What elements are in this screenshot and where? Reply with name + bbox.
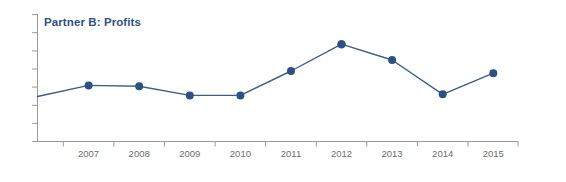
data-point-2008[interactable] [135,82,143,90]
data-line-profits [38,44,494,96]
x-tick-label-2012: 2012 [331,148,352,159]
data-point-2011[interactable] [287,67,295,75]
chart-title: Partner B: Profits [44,16,141,28]
data-point-2012[interactable] [337,40,346,49]
x-tick-label-2015: 2015 [483,148,504,159]
data-markers [85,40,498,100]
x-tick-label-2007: 2007 [78,148,99,159]
y-axis-ticks [32,15,37,142]
x-tick-label-2008: 2008 [129,148,150,159]
data-point-2010[interactable] [236,91,244,99]
data-point-2013[interactable] [388,56,396,64]
data-point-2015[interactable] [489,69,497,77]
x-axis-ticks [63,142,518,147]
chart-figure: Partner B: Profits 2007 2008 2009 2010 2… [0,0,566,182]
data-point-2014[interactable] [439,90,447,98]
data-point-2007[interactable] [85,81,93,89]
x-tick-label-2013: 2013 [382,148,403,159]
data-point-2009[interactable] [186,91,194,99]
x-tick-label-2011: 2011 [281,148,301,159]
x-tick-label-2014: 2014 [432,148,453,159]
x-tick-label-2009: 2009 [179,148,200,159]
x-tick-label-2010: 2010 [230,148,251,159]
